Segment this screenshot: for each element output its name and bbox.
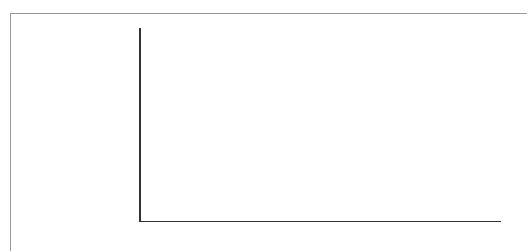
y-axis-line xyxy=(139,28,141,222)
chart-figure xyxy=(10,13,527,251)
plot-area xyxy=(139,28,501,222)
x-axis-line xyxy=(139,221,501,223)
